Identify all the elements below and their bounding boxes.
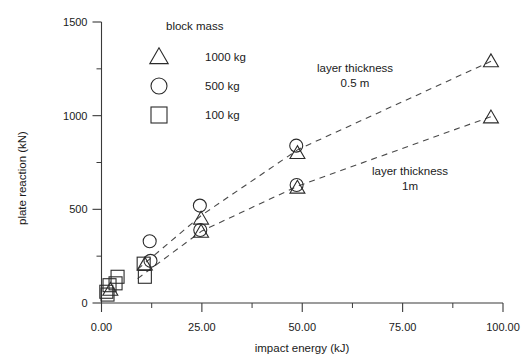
chart-svg: 050010001500 plate reaction (kN) 0.0025.… xyxy=(0,0,528,360)
data-points xyxy=(100,54,499,301)
x-axis-ticks xyxy=(102,303,504,312)
annotation-upper: layer thickness 0.5 m xyxy=(317,62,393,89)
y-tick-label: 1500 xyxy=(63,16,87,28)
legend-entry-label: 500 kg xyxy=(205,80,240,92)
y-tick-label: 500 xyxy=(69,203,87,215)
legend-entry: 1000 kg xyxy=(150,48,246,64)
x-tick-label: 50.00 xyxy=(288,321,316,333)
y-tick-label: 1000 xyxy=(63,110,87,122)
trend-line xyxy=(138,117,491,279)
x-tick-label: 75.00 xyxy=(389,321,417,333)
legend-entry: 500 kg xyxy=(151,78,240,94)
x-axis-tick-labels: 0.0025.0050.0075.00100.00 xyxy=(91,321,520,333)
x-axis: 0.0025.0050.0075.00100.00 impact energy … xyxy=(91,303,520,354)
chart-figure: 050010001500 plate reaction (kN) 0.0025.… xyxy=(0,0,528,360)
marker-triangle xyxy=(194,211,209,224)
x-axis-title: impact energy (kJ) xyxy=(255,342,350,354)
legend: block mass 1000 kg500 kg100 kg xyxy=(150,20,246,123)
y-axis: 050010001500 plate reaction (kN) xyxy=(16,16,102,309)
legend-title: block mass xyxy=(166,20,224,32)
y-axis-tick-labels: 050010001500 xyxy=(63,16,87,309)
legend-entry-label: 1000 kg xyxy=(205,51,246,63)
legend-entries: 1000 kg500 kg100 kg xyxy=(150,48,246,123)
marker-triangle xyxy=(483,110,498,123)
marker-triangle xyxy=(483,54,498,67)
annotation-lower: layer thickness 1m xyxy=(372,165,448,192)
marker-circle xyxy=(193,199,206,212)
annotation-upper-line2: 0.5 m xyxy=(341,77,370,89)
series-layer-thickness-1m xyxy=(101,110,498,301)
annotation-lower-line2: 1m xyxy=(402,180,418,192)
y-axis-title: plate reaction (kN) xyxy=(16,131,28,225)
marker-circle xyxy=(143,235,156,248)
annotation-lower-line1: layer thickness xyxy=(372,165,448,177)
legend-entry: 100 kg xyxy=(151,107,240,123)
x-tick-label: 0.00 xyxy=(91,321,112,333)
x-tick-label: 25.00 xyxy=(188,321,216,333)
y-axis-ticks xyxy=(93,22,102,303)
marker-triangle xyxy=(150,48,168,64)
marker-circle xyxy=(151,78,167,94)
y-tick-label: 0 xyxy=(81,297,87,309)
annotation-upper-line1: layer thickness xyxy=(317,62,393,74)
marker-square xyxy=(151,107,167,123)
x-tick-label: 100.00 xyxy=(486,321,520,333)
legend-entry-label: 100 kg xyxy=(205,109,240,121)
